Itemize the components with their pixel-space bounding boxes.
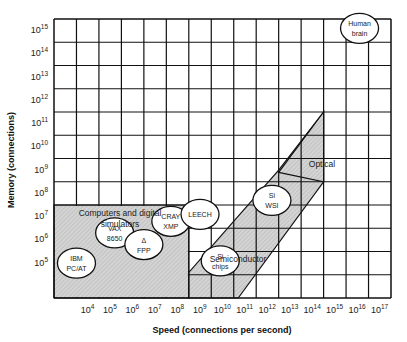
system-label: LEECH xyxy=(188,211,211,218)
system-leech: LEECH xyxy=(181,199,219,229)
region-label-optical: Optical xyxy=(309,159,336,169)
x-tick-label: 104 xyxy=(81,303,95,315)
system-label: IBM xyxy=(70,255,83,262)
y-tick-label: 1014 xyxy=(31,46,49,58)
system-label-2: PC/AT xyxy=(66,265,87,272)
x-tick-label: 1015 xyxy=(326,303,344,315)
system-ellipse xyxy=(253,185,291,215)
system-label-2: chips xyxy=(212,263,229,271)
system-label-2: FPP xyxy=(137,247,151,254)
system-label-2: WSI xyxy=(265,202,278,209)
x-tick-label: 109 xyxy=(193,303,207,315)
x-tick-label: 1010 xyxy=(214,303,232,315)
x-tick-label: 1017 xyxy=(371,303,389,315)
system-label: Human xyxy=(348,20,371,27)
region-label-computers: Computers and digital xyxy=(79,208,162,218)
y-tick-label: 105 xyxy=(34,256,48,268)
system-label-2: XMP xyxy=(163,223,179,230)
system-ellipse xyxy=(341,13,379,43)
system-ellipse xyxy=(57,248,95,278)
system-ibm-pc-at: IBMPC/AT xyxy=(57,248,95,278)
y-tick-labels: 105106107108109101010111012101310141015 xyxy=(31,23,49,268)
x-tick-label: 1012 xyxy=(259,303,277,315)
y-tick-label: 1010 xyxy=(31,139,49,151)
x-tick-label: 106 xyxy=(126,303,140,315)
y-tick-label: 109 xyxy=(34,163,48,175)
y-tick-label: 1011 xyxy=(31,116,48,128)
system-label-2: 8650 xyxy=(107,235,123,242)
y-tick-label: 108 xyxy=(34,186,48,198)
region-label-computers-2: simulators xyxy=(101,219,140,229)
x-tick-label: 108 xyxy=(171,303,185,315)
y-tick-label: 107 xyxy=(34,209,48,221)
y-tick-label: 1012 xyxy=(31,93,49,105)
chart: IBMPC/ATVAX8650ΔFPPCRAYXMPLEECHSichipsSi… xyxy=(0,0,407,342)
system-human-brain: Humanbrain xyxy=(341,13,379,43)
x-tick-labels: 1041051061071081091010101110121013101410… xyxy=(81,303,389,315)
system-ellipse xyxy=(125,230,163,260)
x-tick-label: 105 xyxy=(103,303,117,315)
system-label: Si xyxy=(269,192,276,199)
system-label-2: brain xyxy=(352,30,368,37)
x-tick-label: 1014 xyxy=(304,303,322,315)
x-tick-label: 107 xyxy=(148,303,162,315)
system--fpp: ΔFPP xyxy=(125,230,163,260)
region-label-semiconductor: Semiconductor xyxy=(210,254,267,264)
y-tick-label: 1015 xyxy=(31,23,49,35)
system-si-wsi: SiWSI xyxy=(253,185,291,215)
x-tick-label: 1016 xyxy=(348,303,366,315)
y-axis-title: Memory (connections) xyxy=(6,112,16,208)
system-label: CRAY xyxy=(161,213,180,220)
y-tick-label: 106 xyxy=(34,232,48,244)
system-label: Δ xyxy=(142,237,147,244)
y-tick-label: 1013 xyxy=(31,70,49,82)
x-tick-label: 1013 xyxy=(281,303,299,315)
x-axis-title: Speed (connections per second) xyxy=(152,325,291,335)
x-tick-label: 1011 xyxy=(236,303,253,315)
